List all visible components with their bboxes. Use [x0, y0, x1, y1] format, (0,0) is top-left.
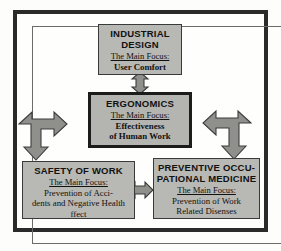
node-focus-value: User Comfort: [99, 62, 181, 73]
node-focus-value: Effectiveness of Human Work: [91, 121, 189, 142]
node-safety-of-work[interactable]: SAFETY OF WORK The Main Focus: Preventio…: [22, 161, 135, 219]
diagram-canvas: INDUSTRIAL DESIGN The Main Focus: User C…: [0, 0, 281, 251]
node-industrial-design[interactable]: INDUSTRIAL DESIGN The Main Focus: User C…: [98, 24, 182, 75]
node-ergonomics[interactable]: ERGONOMICS The Main Focus: Effectiveness…: [88, 92, 192, 148]
node-focus-label: The Main Focus:: [154, 185, 259, 195]
node-focus-value: Prevention of Acci- dents and Negative H…: [23, 188, 134, 220]
node-title: INDUSTRIAL DESIGN: [99, 28, 181, 50]
node-focus-value: Prevention of Work Related Disenses: [154, 196, 259, 217]
connector-ergonomics-medicine-elbow-arrow-icon: [192, 108, 252, 162]
node-title: PREVENTIVE OCCU- PATIONAL MEDICINE: [154, 162, 259, 184]
node-preventive-medicine[interactable]: PREVENTIVE OCCU- PATIONAL MEDICINE The M…: [153, 158, 260, 219]
node-title: ERGONOMICS: [91, 98, 189, 109]
node-focus-label: The Main Focus:: [23, 177, 134, 187]
connector-ergonomics-safety-elbow-arrow-icon: [18, 109, 78, 163]
node-title: SAFETY OF WORK: [23, 165, 134, 176]
node-focus-label: The Main Focus:: [99, 51, 181, 61]
node-focus-label: The Main Focus:: [91, 110, 189, 120]
